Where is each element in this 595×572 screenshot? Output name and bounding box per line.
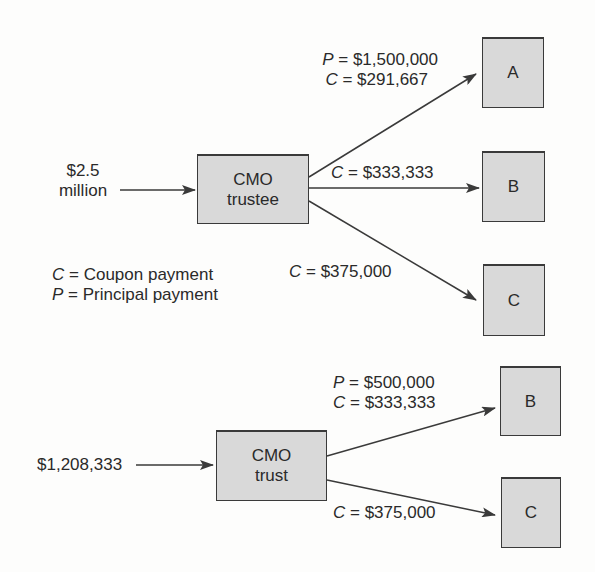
flow-label-bottom-b: P = $500,000 C = $333,333 <box>333 373 436 413</box>
flow-label-a: P = $1,500,000 C = $291,667 <box>300 50 438 90</box>
flow-label-bottom-c: C = $375,000 <box>333 503 436 523</box>
arrow-trust-to-b <box>327 408 495 456</box>
legend-item-principal: P = Principal payment <box>52 285 218 305</box>
input-amount-label: $2.5 million <box>48 161 118 201</box>
cmo-diagram: $2.5 million CMO trustee P = $1,500,000 … <box>0 0 595 572</box>
tranche-b-box: B <box>482 151 545 222</box>
input-amount-bottom-label: $1,208,333 <box>37 455 122 475</box>
legend: C = Coupon payment P = Principal payment <box>52 265 218 305</box>
cmo-trustee-box: CMO trustee <box>197 154 309 224</box>
cmo-trust-box: CMO trust <box>216 430 327 501</box>
tranche-a-box: A <box>482 37 544 108</box>
tranche-c-box: C <box>483 264 545 336</box>
flow-label-c: C = $375,000 <box>289 262 392 282</box>
tranche-b-bottom-box: B <box>500 366 561 436</box>
flow-label-b: C = $333,333 <box>331 163 434 183</box>
tranche-c-bottom-box: C <box>501 477 561 548</box>
legend-item-coupon: C = Coupon payment <box>52 265 218 285</box>
arrow-trustee-to-c <box>309 201 476 300</box>
